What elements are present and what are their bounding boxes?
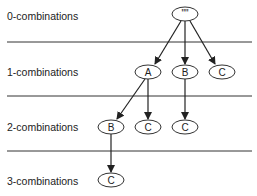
node-label: A [145, 67, 152, 78]
combination-tree: "" A B C B C C C [0, 0, 257, 196]
node-label: B [108, 122, 115, 133]
node-labels: "" A B C B C C C [107, 8, 225, 186]
node-label: B [182, 67, 189, 78]
node-label: C [181, 122, 188, 133]
edge-arrow [117, 79, 145, 119]
node-label: "" [181, 8, 189, 19]
node-label: C [144, 122, 151, 133]
node-label: C [107, 175, 114, 186]
nodes [98, 7, 235, 187]
level-dividers [7, 42, 252, 151]
node-label: C [218, 67, 225, 78]
